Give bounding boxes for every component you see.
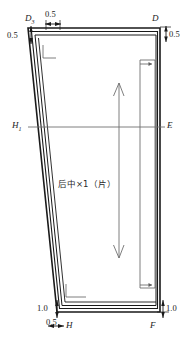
- point-label-bottom-left: H: [66, 321, 73, 332]
- pattern-vector-graphic: [0, 0, 186, 345]
- dimension-label-bottom-right-vertical: 1.0: [166, 304, 177, 313]
- point-label-mid-left: H1: [12, 121, 22, 132]
- point-label-mid-left-subscript: 1: [19, 126, 22, 132]
- dimension-label-bottom-left-vertical: 1.0: [37, 304, 48, 313]
- dim-bottomright-vertical-top-arrow-icon: [161, 300, 165, 306]
- point-label-bottom-right-letter: F: [150, 320, 156, 330]
- piece-name-label: 后中×1（片）: [58, 180, 116, 189]
- dimension-label-top-right-vertical: 0.5: [169, 30, 180, 39]
- seam-allowance-line-2: [32, 32, 158, 309]
- right-facing-panel: [140, 60, 155, 288]
- top-left-corner-square-mark: [43, 45, 56, 58]
- point-label-bottom-right: F: [150, 321, 156, 332]
- dim-topleft-vertical-top-arrow-icon: [29, 26, 33, 32]
- facing-bottom-arrowhead-icon: [149, 283, 153, 287]
- facing-top-arrowhead-icon: [149, 62, 153, 66]
- point-label-top-right-letter: D: [152, 13, 159, 23]
- inner-fold-line: [39, 38, 157, 302]
- dimension-label-top-horizontal: 0.5: [45, 10, 56, 19]
- dimension-label-bottom-left-horizontal: 0.5: [46, 318, 57, 327]
- point-label-top-left-subscript: 3: [32, 19, 35, 25]
- dim-topright-vertical-bottom-arrow-icon: [164, 37, 168, 43]
- point-label-top-left: D3: [25, 14, 35, 25]
- point-label-bottom-left-letter: H: [66, 320, 73, 330]
- bottom-left-corner-square-mark: [66, 284, 86, 297]
- dim-bottomright-vertical-bottom-arrow-icon: [161, 312, 165, 318]
- point-label-top-right: D: [152, 14, 159, 25]
- dim-bottomleft-horizontal-right-arrow-icon: [58, 324, 64, 328]
- stitch-line: [35, 35, 156, 306]
- dimension-label-top-left-vertical: 0.5: [7, 31, 18, 40]
- pattern-drawing-canvas: D3 D H1 E H F 0.5 0.5 0.5 1.0 0.5 1.0 后中…: [0, 0, 186, 345]
- point-label-mid-right: E: [167, 121, 173, 132]
- point-label-mid-right-letter: E: [167, 120, 173, 130]
